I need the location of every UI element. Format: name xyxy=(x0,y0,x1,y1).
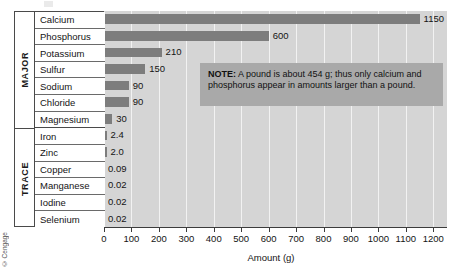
bar-sulfur xyxy=(104,64,145,74)
x-tick-0 xyxy=(104,228,105,232)
group-major-text: MAJOR xyxy=(20,52,30,88)
x-tick-900 xyxy=(351,228,352,232)
x-tick-600 xyxy=(269,228,270,232)
category-label-chloride: Chloride xyxy=(35,95,105,112)
category-label-iodine: Iodine xyxy=(35,195,105,212)
x-tick-label-700: 700 xyxy=(288,233,304,244)
category-label-manganese: Manganese xyxy=(35,178,105,195)
x-tick-500 xyxy=(241,228,242,232)
group-label-trace: TRACE xyxy=(15,128,35,228)
category-label-zinc: Zinc xyxy=(35,145,105,162)
bar-value-label: 30 xyxy=(116,113,127,124)
category-label-potassium: Potassium xyxy=(35,45,105,62)
bar-value-label: 2.4 xyxy=(111,129,124,140)
category-label-iron: Iron xyxy=(35,128,105,145)
bar-value-label: 2.0 xyxy=(111,146,124,157)
x-tick-label-800: 800 xyxy=(316,233,332,244)
x-axis-title-text: Amount (g) xyxy=(248,252,295,263)
x-axis-title: Amount (g) xyxy=(0,252,458,263)
group-column: MAJOR TRACE xyxy=(15,12,35,226)
category-label-magnesium: Magnesium xyxy=(35,112,105,129)
x-tick-label-400: 400 xyxy=(206,233,222,244)
category-label-selenium: Selenium xyxy=(35,211,105,228)
note-prefix: NOTE: xyxy=(208,69,236,79)
x-tick-1100 xyxy=(406,228,407,232)
x-tick-label-300: 300 xyxy=(178,233,194,244)
x-tick-label-0: 0 xyxy=(101,233,106,244)
bar-row: 0.02 xyxy=(104,210,447,227)
bar-row: 210 xyxy=(104,44,447,61)
bar-value-label: 90 xyxy=(133,80,144,91)
x-tick-300 xyxy=(186,228,187,232)
copyright-credit: © Cengage xyxy=(1,232,8,267)
x-tick-label-200: 200 xyxy=(151,233,167,244)
x-tick-label-1000: 1000 xyxy=(368,233,389,244)
bar-value-label: 90 xyxy=(133,96,144,107)
x-tick-400 xyxy=(214,228,215,232)
x-tick-label-1100: 1100 xyxy=(396,233,416,244)
category-label-sulfur: Sulfur xyxy=(35,62,105,79)
bar-row: 0.02 xyxy=(104,177,447,194)
bar-sodium xyxy=(104,81,129,91)
category-label-calcium: Calcium xyxy=(35,12,105,29)
category-table: MAJOR TRACE CalciumPhosphorusPotassiumSu… xyxy=(14,11,104,227)
bar-row: 2.0 xyxy=(104,144,447,161)
group-trace-text: TRACE xyxy=(20,162,30,196)
bar-value-label: 210 xyxy=(166,46,182,57)
bar-phosphorus xyxy=(104,31,269,41)
note-text: A pound is about 454 g; thus only calciu… xyxy=(208,69,422,90)
bar-magnesium xyxy=(104,114,112,124)
bar-row: 1150 xyxy=(104,11,447,28)
category-label-copper: Copper xyxy=(35,162,105,179)
x-tick-label-500: 500 xyxy=(233,233,249,244)
bar-value-label: 600 xyxy=(273,30,289,41)
bar-row: 600 xyxy=(104,28,447,45)
bar-value-label: 0.02 xyxy=(108,179,127,190)
bar-value-label: 0.02 xyxy=(108,196,127,207)
x-tick-700 xyxy=(296,228,297,232)
x-tick-200 xyxy=(159,228,160,232)
x-tick-label-900: 900 xyxy=(343,233,359,244)
x-tick-100 xyxy=(131,228,132,232)
category-label-sodium: Sodium xyxy=(35,78,105,95)
bar-value-label: 0.09 xyxy=(108,163,127,174)
note-annotation: NOTE: A pound is about 454 g; thus only … xyxy=(200,63,443,106)
x-tick-label-600: 600 xyxy=(261,233,277,244)
group-label-major: MAJOR xyxy=(15,12,35,128)
x-axis-line xyxy=(104,227,447,228)
x-tick-800 xyxy=(324,228,325,232)
bar-potassium xyxy=(104,48,162,58)
bar-row: 2.4 xyxy=(104,127,447,144)
bar-value-label: 0.02 xyxy=(108,213,127,224)
bar-row: 0.09 xyxy=(104,161,447,178)
bar-value-label: 1150 xyxy=(424,13,444,24)
bars-layer: 11506002101509090302.42.00.090.020.020.0… xyxy=(104,11,447,227)
x-tick-1200 xyxy=(433,228,434,232)
bar-chloride xyxy=(104,97,129,107)
category-label-phosphorus: Phosphorus xyxy=(35,29,105,46)
x-tick-label-100: 100 xyxy=(124,233,140,244)
mineral-amounts-bar-chart: 11506002101509090302.42.00.090.020.020.0… xyxy=(0,0,458,273)
x-tick-1000 xyxy=(378,228,379,232)
scan-artifact xyxy=(44,1,53,7)
bar-calcium xyxy=(104,14,420,24)
x-tick-label-1200: 1200 xyxy=(423,233,444,244)
bar-row: 0.02 xyxy=(104,194,447,211)
bar-value-label: 150 xyxy=(149,63,165,74)
bar-row: 30 xyxy=(104,111,447,128)
